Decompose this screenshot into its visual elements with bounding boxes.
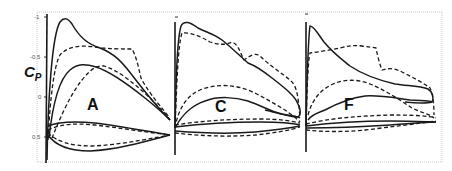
y-axis-label: CP	[24, 63, 42, 83]
cp-chart: -1 -0.5 0 0.5 CP A	[0, 0, 452, 171]
series-solid	[175, 122, 300, 127]
series-solid	[308, 96, 432, 120]
panel-label-c: C	[215, 98, 227, 115]
panel-f: F	[306, 22, 436, 152]
series-dashed	[48, 46, 170, 140]
series-solid	[49, 65, 170, 138]
ytick-label: -1	[34, 14, 40, 20]
panel-a: A	[46, 14, 170, 163]
panel-label-f: F	[344, 96, 354, 113]
series-solid	[306, 26, 433, 126]
ytick-label: 0.5	[32, 134, 41, 140]
series-solid	[306, 122, 436, 128]
series-dashed	[52, 66, 170, 138]
series-dashed	[48, 124, 170, 135]
ytick-label: 0	[38, 94, 42, 100]
panel-c: C	[175, 22, 300, 155]
panel-label-a: A	[87, 96, 99, 113]
series-solid	[175, 22, 300, 128]
ytick-label: -0.5	[30, 54, 41, 60]
series-solid	[175, 98, 300, 128]
